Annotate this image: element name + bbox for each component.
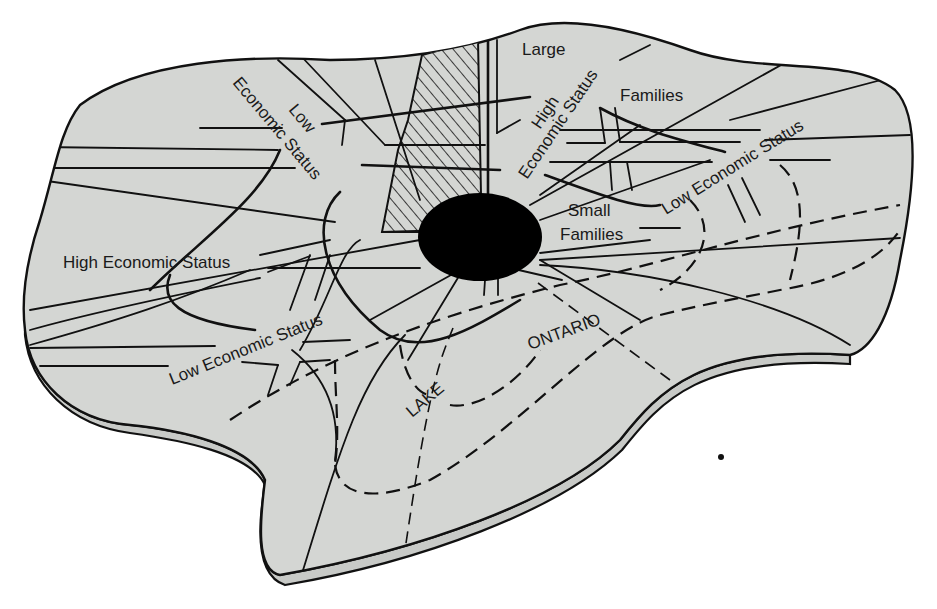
central-business-district [418,193,542,281]
label-small-families-1: Small [568,201,611,220]
stray-dot [718,454,724,460]
label-large-families-2: Families [620,86,683,105]
social-area-map: Large Families High Economic Status Low … [0,0,937,609]
label-high-status-w: High Economic Status [63,253,230,272]
label-small-families-2: Families [560,225,623,244]
label-large-families-1: Large [522,40,565,59]
